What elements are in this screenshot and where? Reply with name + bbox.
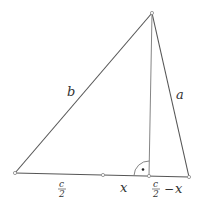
svg-text:2: 2: [152, 189, 159, 199]
triangle-diagram: b a c 2 x c 2 − x: [0, 0, 198, 206]
label-b: b: [67, 84, 75, 99]
svg-text:x: x: [175, 181, 183, 196]
vertex-b: [187, 175, 190, 178]
svg-text:c: c: [153, 179, 158, 189]
svg-text:c: c: [59, 179, 64, 189]
svg-text:2: 2: [58, 189, 65, 199]
midpoint: [101, 173, 104, 176]
side-b: [15, 13, 152, 173]
label-x: x: [120, 180, 128, 195]
vertex-a: [13, 171, 16, 174]
right-angle-dot: [142, 168, 145, 171]
label-c-half: c 2: [58, 179, 66, 199]
vertex-c: [150, 11, 153, 14]
altitude: [149, 13, 152, 176]
label-a: a: [176, 87, 184, 102]
altitude-foot: [147, 174, 150, 177]
label-c-half-minus-x: c 2 − x: [152, 179, 183, 199]
right-angle-arc: [134, 161, 149, 176]
diagram-svg: b a c 2 x c 2 − x: [0, 0, 198, 206]
svg-text:−: −: [164, 182, 174, 196]
